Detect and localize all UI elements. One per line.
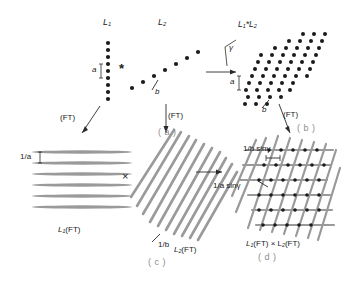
spacing-bracket-a-b-panel <box>237 76 241 90</box>
label-spacing-a-panel-b: a <box>230 78 234 86</box>
caption-l2-ft: L2(FT) <box>174 246 196 255</box>
operator-multiplication: × <box>122 171 128 182</box>
label-ft-left: (FT) <box>60 114 75 122</box>
lattice-l2-dots <box>130 50 200 90</box>
label-l2: L2 <box>158 18 166 28</box>
label-inv-a-sin-gamma: 1/a sinγ <box>213 182 241 190</box>
label-ft-right: (FT) <box>283 111 298 119</box>
lattice-l1-conv-l2-dots <box>243 32 327 106</box>
label-inv-a: 1/a <box>20 153 31 161</box>
operator-convolution: * <box>119 62 124 75</box>
lattice-l1-dots <box>106 41 110 101</box>
label-inv-b-sin-gamma: 1/b sinγ <box>243 145 271 153</box>
label-spacing-b: b <box>155 88 159 96</box>
spacing-bracket-inv-a <box>38 152 42 163</box>
panel-tag-d: ( d ) <box>258 253 277 262</box>
label-inv-b: 1/b <box>158 241 169 249</box>
label-angle-gamma: γ <box>229 44 233 52</box>
arrow-a-to-b <box>206 70 236 75</box>
caption-l1-ft-times-l2-ft: L1(FT) × L2(FT) <box>246 240 300 249</box>
label-l1: L1 <box>103 18 111 28</box>
arrow-ft-left <box>82 106 100 133</box>
caption-l1-ft: L1(FT) <box>58 226 80 235</box>
label-ft-middle: (FT) <box>168 112 183 120</box>
fringe-set-l1-ft <box>32 150 132 208</box>
panel-tag-b: ( b ) <box>297 124 316 133</box>
spacing-indicator-inv-b-sin <box>266 155 280 161</box>
figure-root: L1 L2 L1*L2 a * b γ a b (FT) (FT) (FT) (… <box>0 0 347 286</box>
panel-tag-c: ( c ) <box>148 258 166 267</box>
label-spacing-b-panel-b: b <box>262 106 266 114</box>
panel-tag-a: ( a ) <box>158 128 177 137</box>
spacing-bracket-a <box>99 64 103 78</box>
label-l1-conv-l2: L1*L2 <box>238 20 257 30</box>
label-spacing-a: a <box>92 66 96 74</box>
